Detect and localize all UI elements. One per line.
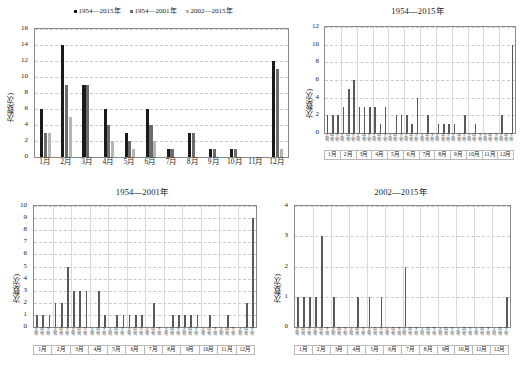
x-axis-dekad-labels: 上旬中旬下旬上旬中旬下旬上旬中旬下旬上旬中旬下旬上旬中旬下旬上旬中旬下旬上旬中旬…: [324, 134, 514, 148]
y-tick-label: 1: [24, 310, 28, 317]
x-dekad-label: 上旬: [34, 328, 38, 336]
x-month-label: 9月: [437, 345, 455, 355]
x-dekad-label: 中旬: [409, 134, 413, 142]
bar: [146, 109, 149, 157]
bar: [448, 124, 450, 133]
x-dekad-label: 上旬: [435, 134, 439, 142]
month-separator: [53, 206, 54, 327]
x-dekad-label: 中旬: [488, 134, 492, 142]
bar: [86, 291, 88, 327]
y-tick-label: 4: [285, 202, 289, 209]
x-dekad-label: 中旬: [301, 328, 305, 336]
x-month-label: 9月: [180, 345, 198, 355]
x-dekad-label: 上旬: [313, 328, 317, 336]
y-tick-label: 3: [24, 286, 28, 293]
x-axis-dekad-labels: 上旬中旬下旬上旬中旬下旬上旬中旬下旬上旬中旬下旬上旬中旬下旬上旬中旬下旬上旬中旬…: [294, 328, 509, 342]
x-dekad-label: 下旬: [46, 328, 50, 336]
bar: [297, 297, 299, 327]
y-tick-label: 8: [25, 89, 29, 96]
y-tick-label: 14: [21, 41, 28, 48]
bar: [227, 315, 229, 327]
x-month-label: 3月: [70, 345, 88, 355]
x-dekad-label: 下旬: [83, 328, 87, 336]
bar: [132, 149, 135, 157]
bar: [332, 115, 334, 133]
y-tick-label: 12: [312, 23, 319, 30]
x-dekad-label: 中旬: [498, 328, 502, 336]
x-dekad-label: 中旬: [457, 134, 461, 142]
x-tick-label: 10月: [227, 158, 242, 166]
x-month-label: 8月: [434, 150, 450, 160]
x-month-label: 7月: [401, 345, 419, 355]
x-dekad-label: 中旬: [462, 328, 466, 336]
bar: [333, 297, 335, 327]
bar: [443, 124, 445, 133]
bar: [380, 124, 382, 133]
x-month-label: 5月: [387, 150, 403, 160]
x-month-label: 6月: [125, 345, 143, 355]
bar: [82, 85, 85, 157]
bar: [401, 115, 403, 133]
x-dekad-label: 中旬: [373, 328, 377, 336]
y-tick-label: 2: [316, 111, 320, 118]
x-dekad-label: 下旬: [462, 134, 466, 142]
x-month-label: 12月: [236, 345, 255, 355]
month-separator: [436, 27, 437, 133]
bar: [125, 133, 128, 157]
x-dekad-label: 中旬: [77, 328, 81, 336]
month-separator: [331, 206, 332, 327]
bar: [246, 303, 248, 327]
x-dekad-label: 中旬: [426, 328, 430, 336]
x-dekad-label: 下旬: [383, 134, 387, 142]
bar: [348, 89, 350, 133]
bar: [411, 124, 413, 133]
month-separator: [456, 206, 457, 327]
y-tick-label: 7: [24, 238, 28, 245]
month-separator: [388, 27, 389, 133]
month-separator: [90, 206, 91, 327]
x-dekad-label: 中旬: [188, 328, 192, 336]
x-tick-label: 11月: [248, 158, 262, 166]
x-tick-label: 8月: [187, 158, 198, 166]
month-separator: [420, 206, 421, 327]
bar: [178, 315, 180, 327]
x-dekad-label: 上旬: [356, 134, 360, 142]
x-dekad-label: 中旬: [59, 328, 63, 336]
month-separator: [483, 27, 484, 133]
x-tick-label: 7月: [166, 158, 177, 166]
x-month-label: 5月: [107, 345, 125, 355]
month-separator: [403, 206, 404, 327]
x-dekad-label: 中旬: [337, 328, 341, 336]
x-dekad-label: 上旬: [331, 328, 335, 336]
x-dekad-label: 中旬: [441, 134, 445, 142]
x-month-label: 10月: [454, 345, 472, 355]
bar: [153, 303, 155, 327]
x-dekad-label: 下旬: [343, 328, 347, 336]
x-month-label: 4月: [371, 150, 387, 160]
x-dekad-label: 下旬: [414, 328, 418, 336]
x-dekad-label: 上旬: [340, 134, 344, 142]
x-month-label: 3月: [330, 345, 348, 355]
plot-area: [34, 28, 289, 158]
bar: [42, 315, 44, 327]
month-separator: [474, 206, 475, 327]
month-separator: [108, 206, 109, 327]
y-tick-label: 2: [285, 262, 289, 269]
x-dekad-label: 中旬: [393, 134, 397, 142]
bar: [438, 124, 440, 133]
x-month-label: 11月: [217, 345, 235, 355]
x-dekad-label: 下旬: [399, 134, 403, 142]
x-dekad-label: 下旬: [157, 328, 161, 336]
bar: [190, 315, 192, 327]
x-tick-label: 2月: [60, 158, 71, 166]
y-axis-ticks: 01234: [275, 205, 289, 326]
bar: [337, 115, 339, 133]
x-month-label: 10月: [199, 345, 217, 355]
y-tick-label: 0: [25, 153, 29, 160]
x-dekad-label: 下旬: [432, 328, 436, 336]
x-month-label: 4月: [88, 345, 106, 355]
bar: [149, 125, 152, 157]
bar: [61, 303, 63, 327]
x-month-label: 7月: [144, 345, 162, 355]
bar: [427, 115, 429, 133]
